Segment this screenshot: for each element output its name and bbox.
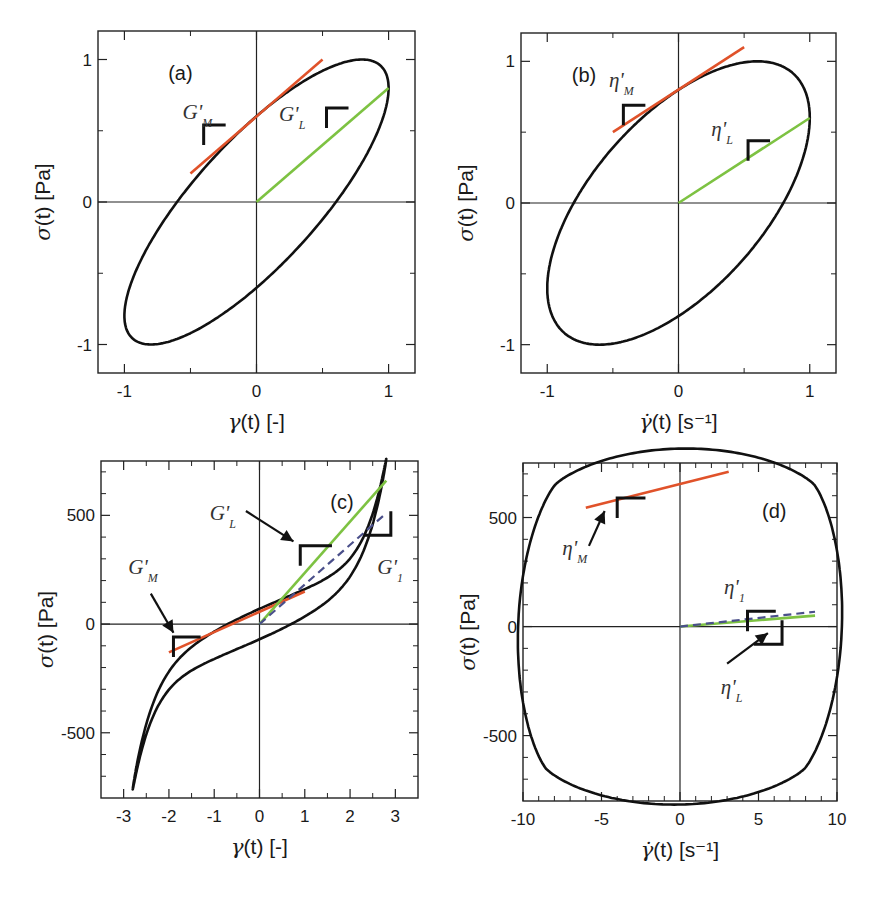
slope-marker [364,511,391,535]
modulus-annotation: G'L [210,501,237,531]
y-tick-label: 500 [489,509,517,528]
annotation-main: η' [721,675,736,699]
modulus-annotation: η'1 [724,575,745,605]
panel-tag: (d) [762,500,786,522]
x-axis-text: (t) [-] [244,835,288,858]
figure-canvas: -101-101γ(t) [-]σ(t) [Pa](a)G'MG'L-101-1… [0,0,876,897]
annotation-main: G' [377,555,397,579]
panel-tag: (c) [330,491,353,513]
annotation-subscript: M [623,84,635,98]
annotation-main: G' [128,555,148,579]
x-tick-label: -3 [116,807,131,826]
x-tick-label: 1 [384,382,393,401]
modulus-annotation: G'1 [377,555,403,585]
x-axis-symbol: γ [231,835,244,859]
slope-marker [617,498,645,518]
y-axis-text: (t) [Pa] [34,591,57,654]
annotation-subscript: M [576,552,588,566]
x-tick-label: 1 [300,807,309,826]
annotation-subscript: 1 [739,591,745,605]
y-axis-text: (t) [Pa] [31,163,54,226]
annotation-main: η' [609,68,624,92]
y-tick-label: 0 [83,193,92,212]
annotation-main: G' [279,102,299,126]
annotation-subscript: L [735,691,743,705]
annotation-subscript: M [147,571,159,585]
panel-tag: (b) [572,64,596,86]
y-axis-symbol: σ [454,227,478,242]
y-tick-label: -500 [61,724,95,743]
modulus-annotation: η'L [721,675,743,705]
chart-panel-a: -101-101γ(t) [-]σ(t) [Pa](a)G'MG'L [31,31,415,434]
y-axis-label: σ(t) [Pa] [31,163,55,240]
modulus-annotation: G'M [183,100,214,130]
modulus-annotation: η'L [711,117,733,147]
annotation-subscript: 1 [397,571,403,585]
y-tick-label: 500 [67,506,95,525]
x-tick-label: -1 [540,382,555,401]
chart-panel-c: -3-2-10123-5000500γ(t) [-]σ(t) [Pa](c)G'… [34,459,418,859]
y-tick-label: 1 [506,52,515,71]
x-tick-label: 5 [754,810,763,829]
annotation-main: η' [711,117,726,141]
y-tick-label: -1 [500,336,515,355]
x-axis-symbol: γ [228,410,241,434]
panel-tag: (a) [168,62,192,84]
annotation-main: G' [183,100,203,124]
annotation-subscript: L [298,118,306,132]
y-axis-label: σ(t) [Pa] [456,593,480,670]
annotation-subscript: L [725,133,733,147]
x-axis-label: γ̇(t) [s⁻¹] [639,410,717,434]
x-tick-label: 0 [252,382,261,401]
y-tick-label: 0 [86,615,95,634]
x-tick-label: 10 [828,810,847,829]
x-tick-label: -1 [207,807,222,826]
y-axis-text: (t) [Pa] [454,164,477,227]
modulus-line-max_tangent [169,591,305,652]
y-axis-symbol: σ [456,656,480,671]
y-tick-label: 0 [506,194,515,213]
x-tick-label: -2 [161,807,176,826]
x-axis-text: (t) [s⁻¹] [652,410,718,433]
modulus-line-max_tangent [586,472,729,508]
y-tick-label: -500 [483,727,517,746]
arrowhead-icon [280,530,293,542]
modulus-line-dashed [260,513,387,624]
x-tick-label: 2 [345,807,354,826]
x-tick-label: 0 [675,810,684,829]
annotation-subscript: L [228,517,236,531]
y-axis-label: σ(t) [Pa] [34,591,58,668]
x-tick-label: -5 [594,810,609,829]
chart-panel-d: -10-50510-5000500γ̇(t) [s⁻¹]σ(t) [Pa](d)… [456,449,846,863]
x-axis-symbol: γ̇ [639,410,652,434]
x-axis-text: (t) [s⁻¹] [653,838,719,861]
y-axis-symbol: σ [31,226,55,241]
annotation-main: η' [724,575,739,599]
x-tick-label: 0 [255,807,264,826]
y-tick-label: 1 [83,51,92,70]
x-axis-label: γ(t) [-] [231,835,288,859]
x-axis-text: (t) [-] [241,410,285,433]
annotation-main: G' [210,501,230,525]
y-axis-symbol: σ [34,653,58,668]
x-tick-label: 3 [391,807,400,826]
modulus-annotation: η'M [609,68,635,98]
x-tick-label: -1 [117,382,132,401]
y-axis-text: (t) [Pa] [456,593,479,656]
chart-panel-b: -101-101γ̇(t) [s⁻¹]σ(t) [Pa](b)η'Mη'L [454,33,836,434]
annotation-main: η' [562,536,577,560]
y-tick-label: 0 [508,618,517,637]
x-axis-label: γ(t) [-] [228,410,285,434]
x-tick-label: 1 [805,382,814,401]
y-tick-label: -1 [77,336,92,355]
modulus-annotation: G'L [279,102,306,132]
x-axis-label: γ̇(t) [s⁻¹] [641,838,719,862]
x-axis-symbol: γ̇ [641,838,654,862]
modulus-line-secant [260,481,387,624]
modulus-annotation: G'M [128,555,159,585]
modulus-annotation: η'M [562,536,588,566]
annotation-subscript: M [201,116,213,130]
modulus-line-secant [257,88,389,202]
x-tick-label: 0 [674,382,683,401]
y-axis-label: σ(t) [Pa] [454,164,478,241]
